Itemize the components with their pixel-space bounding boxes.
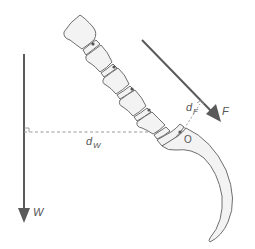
bone-segments [64,15,184,146]
pivot-label: O [184,134,192,145]
svg-text:W: W [93,141,102,150]
force-label: F [222,105,230,117]
lever-diagram: W d W F d F O [0,0,255,249]
force-arrow [142,40,221,122]
claw [162,128,233,242]
weight-arm-label: d W [86,135,102,150]
svg-text:d: d [186,101,193,113]
weight-label: W [33,206,45,218]
svg-text:d: d [86,135,93,147]
svg-text:F: F [193,107,199,116]
force-arm-label: d F [186,101,199,116]
weight-arrow [18,54,30,223]
